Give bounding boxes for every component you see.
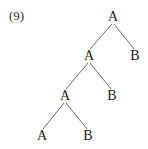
tree-node-n2: B [130,48,139,63]
tree-node-n6: B [83,128,92,143]
tree-edges [43,24,134,129]
tree-edge-n1-n4 [90,63,111,89]
tree-edge-n1-n3 [66,63,88,89]
tree-node-n0: A [108,9,119,24]
tree-edge-n3-n5 [43,103,64,129]
syntax-tree: AABABAB [0,0,148,149]
tree-node-n3: A [60,88,71,103]
tree-edge-n0-n2 [114,24,134,49]
tree-edge-n0-n1 [90,24,112,49]
tree-nodes: AABABAB [37,9,140,143]
tree-node-n5: A [37,128,48,143]
tree-node-n1: A [84,48,95,63]
tree-edge-n3-n6 [66,103,87,129]
tree-node-n4: B [107,88,116,103]
